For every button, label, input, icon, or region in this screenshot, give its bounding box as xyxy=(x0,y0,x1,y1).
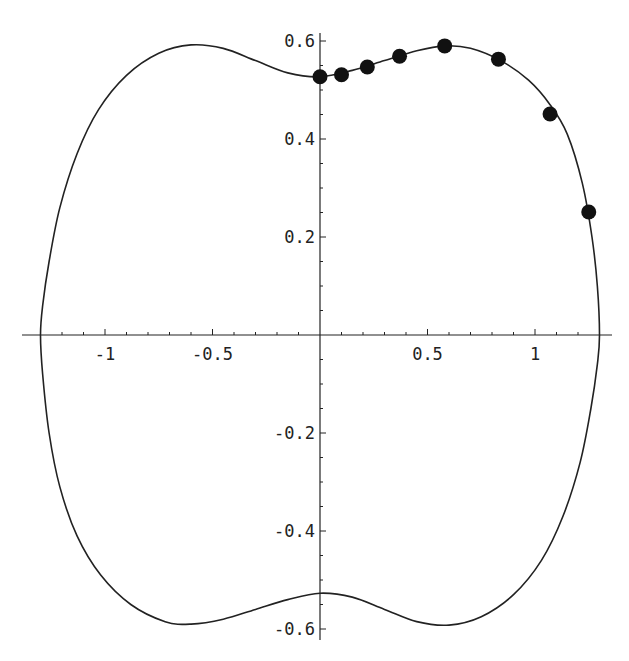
y-tick-label: 0.6 xyxy=(284,31,315,51)
y-tick-label: 0.2 xyxy=(284,227,315,247)
data-point xyxy=(334,67,349,82)
data-point xyxy=(543,107,558,122)
data-point xyxy=(581,205,596,220)
x-tick-label: -0.5 xyxy=(192,344,233,364)
data-point xyxy=(360,59,375,74)
x-tick-label: -1 xyxy=(95,344,115,364)
y-tick-label: -0.4 xyxy=(274,521,315,541)
x-tick-label: 0.5 xyxy=(412,344,443,364)
chart-plot-area: -1-0.50.510.60.40.2-0.2-0.4-0.6 xyxy=(0,0,629,661)
x-tick-label: 1 xyxy=(530,344,540,364)
data-point xyxy=(392,49,407,64)
data-point xyxy=(313,69,328,84)
sample-points-series xyxy=(313,38,597,219)
y-tick-label: 0.4 xyxy=(284,129,315,149)
y-tick-label: -0.2 xyxy=(274,423,315,443)
y-tick-label: -0.6 xyxy=(274,619,315,639)
data-point xyxy=(437,38,452,53)
axes: -1-0.50.510.60.40.2-0.2-0.4-0.6 xyxy=(22,31,612,640)
data-point xyxy=(491,52,506,67)
